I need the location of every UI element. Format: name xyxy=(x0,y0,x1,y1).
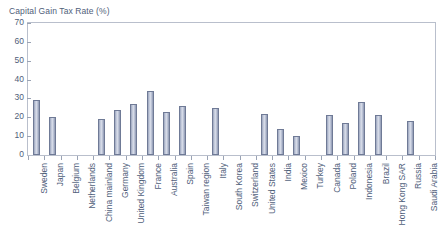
bar-slot xyxy=(337,23,353,155)
x-axis-label: Mexico xyxy=(300,163,309,190)
x-tick-mark xyxy=(305,156,306,160)
bar[interactable] xyxy=(130,104,137,155)
x-tick-mark xyxy=(435,156,436,160)
x-tick-mark xyxy=(44,156,45,160)
bar-slot xyxy=(158,23,174,155)
bar[interactable] xyxy=(358,102,365,155)
x-axis-label: Brazil xyxy=(382,163,391,184)
x-tick-mark xyxy=(272,156,273,160)
x-axis-label: Indonesia xyxy=(365,163,374,200)
x-tick-mark xyxy=(223,156,224,160)
y-tick-label: 10 xyxy=(15,131,24,140)
x-tick-mark xyxy=(61,156,62,160)
bar[interactable] xyxy=(326,115,333,155)
x-tick-mark xyxy=(191,156,192,160)
x-tick-mark xyxy=(240,156,241,160)
bar[interactable] xyxy=(33,100,40,155)
bar[interactable] xyxy=(407,121,414,155)
bar[interactable] xyxy=(147,91,154,155)
bar-slot xyxy=(142,23,158,155)
x-axis-label: Poland xyxy=(349,163,358,189)
y-tick-mark xyxy=(27,117,31,118)
y-tick-mark xyxy=(27,136,31,137)
x-axis-label: Japan xyxy=(56,163,65,186)
bar[interactable] xyxy=(163,112,170,155)
bar-slot xyxy=(109,23,125,155)
x-tick-mark xyxy=(419,156,420,160)
x-axis-label: South Korea xyxy=(235,163,244,210)
chart-figure: Capital Gain Tax Rate (%) 01020304050607… xyxy=(0,0,444,239)
bar-slot xyxy=(305,23,321,155)
x-tick-mark xyxy=(370,156,371,160)
bar-slot xyxy=(402,23,418,155)
x-tick-mark xyxy=(288,156,289,160)
bar-slot xyxy=(354,23,370,155)
x-axis-label: Russia xyxy=(414,163,423,189)
bar[interactable] xyxy=(375,115,382,155)
x-tick-mark xyxy=(321,156,322,160)
x-axis-label: Italy xyxy=(219,163,228,179)
x-axis-label: France xyxy=(154,163,163,189)
x-axis-label: Taiwan region xyxy=(202,163,211,215)
y-tick-mark xyxy=(27,23,31,24)
y-tick-label: 0 xyxy=(19,150,24,159)
bar[interactable] xyxy=(98,119,105,155)
x-tick-mark xyxy=(175,156,176,160)
y-tick-label: 70 xyxy=(15,18,24,27)
bar[interactable] xyxy=(293,136,300,155)
x-axis-label: Australia xyxy=(170,163,179,196)
x-tick-mark xyxy=(256,156,257,160)
y-tick-label: 40 xyxy=(15,74,24,83)
x-axis-label: Switzerland xyxy=(251,163,260,207)
x-axis-label: Saudi Arabia xyxy=(430,163,439,211)
bar-slot xyxy=(175,23,191,155)
x-axis-label: United Kingdom xyxy=(137,163,146,223)
bar-slot xyxy=(126,23,142,155)
chart-title: Capital Gain Tax Rate (%) xyxy=(9,6,110,16)
bar-slot xyxy=(77,23,93,155)
y-tick-label: 20 xyxy=(15,112,24,121)
bar-slot xyxy=(240,23,256,155)
x-tick-mark xyxy=(207,156,208,160)
x-axis-label: Sweden xyxy=(40,163,49,194)
bar-slot xyxy=(207,23,223,155)
x-axis-label: Germany xyxy=(121,163,130,198)
bar-slot xyxy=(419,23,435,155)
bar-slot xyxy=(386,23,402,155)
bar-slot xyxy=(191,23,207,155)
y-tick-mark xyxy=(27,61,31,62)
bar[interactable] xyxy=(342,123,349,155)
x-axis-label: China mainland xyxy=(105,163,114,222)
bar[interactable] xyxy=(49,117,56,155)
x-tick-mark xyxy=(354,156,355,160)
x-tick-mark xyxy=(109,156,110,160)
bar[interactable] xyxy=(277,129,284,155)
y-tick-label: 60 xyxy=(15,37,24,46)
x-axis-label: United States xyxy=(268,163,277,214)
bar-slot xyxy=(61,23,77,155)
x-axis-label: India xyxy=(284,163,293,181)
y-tick-mark xyxy=(27,98,31,99)
x-axis-label: Hong Kong SAR xyxy=(398,163,407,225)
x-tick-mark xyxy=(402,156,403,160)
bar-slot xyxy=(288,23,304,155)
x-tick-mark xyxy=(77,156,78,160)
x-tick-mark xyxy=(126,156,127,160)
x-tick-mark xyxy=(386,156,387,160)
y-tick-mark xyxy=(27,42,31,43)
bar-slot xyxy=(321,23,337,155)
bar[interactable] xyxy=(114,110,121,155)
bar[interactable] xyxy=(261,114,268,155)
x-axis-label: Netherlands xyxy=(88,163,97,209)
y-tick-label: 50 xyxy=(15,55,24,64)
x-axis-label: Spain xyxy=(186,163,195,185)
y-tick-label: 30 xyxy=(15,93,24,102)
bar-slot xyxy=(93,23,109,155)
x-tick-mark xyxy=(337,156,338,160)
x-tick-mark xyxy=(142,156,143,160)
bar[interactable] xyxy=(179,106,186,155)
x-axis-label: Belgium xyxy=(72,163,81,194)
bar-slot xyxy=(44,23,60,155)
bar-slot xyxy=(370,23,386,155)
bar[interactable] xyxy=(212,108,219,155)
